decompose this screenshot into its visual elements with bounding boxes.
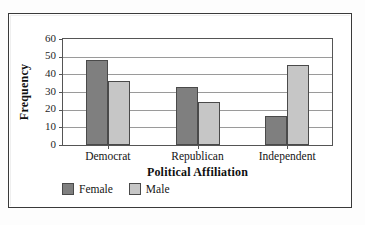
bar-chart-figure: Frequency 0102030405060 Political Affili… xyxy=(0,0,365,225)
gridline xyxy=(63,57,332,58)
x-axis-tick xyxy=(198,145,199,149)
y-axis-tick-label: 50 xyxy=(45,50,56,61)
y-axis-tick xyxy=(59,127,63,128)
x-axis-tick-label: Republican xyxy=(148,150,248,163)
plot-area xyxy=(62,38,333,146)
y-axis-tick-label: 20 xyxy=(45,103,56,114)
x-axis-tick xyxy=(287,145,288,149)
bar-male-democrat xyxy=(108,81,130,145)
y-axis-tick xyxy=(59,92,63,93)
y-axis-tick xyxy=(59,110,63,111)
legend: FemaleMale xyxy=(62,183,186,195)
y-axis-tick-label: 0 xyxy=(51,139,57,150)
y-axis-tick xyxy=(59,145,63,146)
y-axis-tick xyxy=(59,74,63,75)
y-axis-tick-label: 10 xyxy=(45,121,56,132)
bar-female-democrat xyxy=(86,60,108,145)
bar-male-independent xyxy=(287,65,309,145)
y-axis-tick xyxy=(59,39,63,40)
x-axis-title-label: Political Affiliation xyxy=(147,165,248,179)
x-axis-tick-label: Independent xyxy=(237,150,337,163)
bar-female-independent xyxy=(265,116,287,145)
legend-label-female: Female xyxy=(79,183,113,195)
y-axis-tick-label: 30 xyxy=(45,86,56,97)
y-axis-title-label: Frequency xyxy=(17,64,32,120)
y-axis-tick-labels: 0102030405060 xyxy=(36,38,56,146)
legend-entry-female: Female xyxy=(62,183,113,195)
bar-female-republican xyxy=(176,87,198,145)
x-axis-tick-label: Democrat xyxy=(58,150,158,163)
y-axis-tick-label: 40 xyxy=(45,68,56,79)
bar-male-republican xyxy=(198,102,220,145)
legend-swatch-male xyxy=(129,183,141,195)
legend-entry-male: Male xyxy=(129,183,170,195)
legend-label-male: Male xyxy=(146,183,170,195)
y-axis-tick-label: 60 xyxy=(45,33,56,44)
y-axis-tick xyxy=(59,57,63,58)
legend-swatch-female xyxy=(62,183,74,195)
x-axis-title: Political Affiliation xyxy=(62,165,333,180)
y-axis-title: Frequency xyxy=(16,38,32,146)
x-axis-tick xyxy=(108,145,109,149)
